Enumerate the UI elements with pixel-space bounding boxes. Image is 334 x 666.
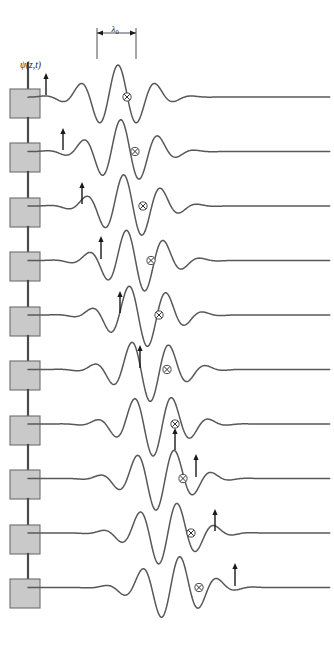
circled-x-icon xyxy=(155,311,163,319)
oscillator-source[interactable] xyxy=(10,227,40,281)
oscillator-box-icon xyxy=(10,252,40,281)
wavelength-dimension: λ0 xyxy=(97,24,136,60)
wave-row xyxy=(10,63,330,123)
oscillator-source[interactable] xyxy=(10,118,40,172)
wave-row xyxy=(10,281,330,346)
wave-row xyxy=(10,445,330,510)
wave-curve xyxy=(28,65,330,123)
wave-row xyxy=(10,554,330,617)
circled-x-icon xyxy=(131,147,139,155)
oscillator-box-icon xyxy=(10,198,40,227)
oscillator-box-icon xyxy=(10,525,40,554)
up-arrow-icon xyxy=(98,236,103,259)
wave-rows-layer xyxy=(10,63,330,617)
oscillator-box-icon xyxy=(10,307,40,336)
wave-curve xyxy=(28,175,330,235)
circled-x-icon xyxy=(147,256,155,264)
circled-x-icon xyxy=(139,202,147,210)
circled-x-icon xyxy=(187,529,195,537)
wave-curve xyxy=(28,120,330,179)
circled-x-icon xyxy=(163,365,171,373)
up-arrow-icon xyxy=(43,73,48,95)
wave-curve xyxy=(28,503,330,564)
circled-x-icon xyxy=(195,583,203,591)
up-arrow-icon xyxy=(212,509,217,531)
oscillator-box-icon xyxy=(10,143,40,172)
wave-row xyxy=(10,227,330,291)
oscillator-source[interactable] xyxy=(10,499,40,554)
oscillator-box-icon xyxy=(10,579,40,608)
up-arrow-icon xyxy=(232,563,237,586)
oscillator-source[interactable] xyxy=(10,390,40,445)
oscillator-source[interactable] xyxy=(10,554,40,608)
wave-row xyxy=(10,336,330,401)
circled-x-icon xyxy=(171,420,179,428)
oscillator-source[interactable] xyxy=(10,281,40,336)
wave-curve xyxy=(28,286,330,346)
oscillator-source[interactable] xyxy=(10,63,40,118)
wavelength-label: λ0 xyxy=(111,24,119,36)
oscillator-box-icon xyxy=(10,416,40,445)
annotations-layer: λ0 ψ(z,t) xyxy=(20,24,136,72)
oscillator-source[interactable] xyxy=(10,172,40,227)
wave-row xyxy=(10,499,330,564)
oscillator-source[interactable] xyxy=(10,445,40,499)
circled-x-icon xyxy=(123,93,131,101)
wave-row xyxy=(10,390,330,456)
wavelength-arrow-left-icon xyxy=(97,30,103,35)
wave-row xyxy=(10,118,330,179)
wave-packet-figure: λ0 ψ(z,t) xyxy=(0,0,334,666)
amplitude-axis-label: ψ(z,t) xyxy=(20,60,41,71)
up-arrow-icon xyxy=(193,454,198,477)
wave-curve xyxy=(28,557,330,618)
wave-curve xyxy=(28,398,330,456)
wavelength-arrow-right-icon xyxy=(130,30,136,35)
oscillator-box-icon xyxy=(10,89,40,118)
up-arrow-icon xyxy=(60,128,65,150)
up-arrow-icon xyxy=(172,428,177,450)
oscillator-box-icon xyxy=(10,470,40,499)
oscillator-box-icon xyxy=(10,361,40,390)
wave-curve xyxy=(28,230,330,291)
wave-curve xyxy=(28,342,330,401)
circled-x-icon xyxy=(179,474,187,482)
oscillator-source[interactable] xyxy=(10,336,40,390)
wave-row xyxy=(10,172,330,235)
